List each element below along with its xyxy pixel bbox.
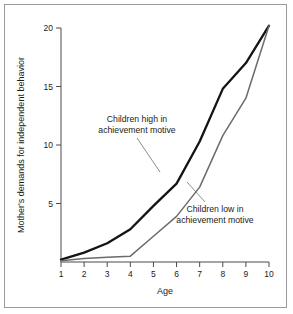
annotation-high-label: Children high inachievement motive bbox=[98, 114, 175, 135]
x-tick-label-8: 8 bbox=[220, 269, 225, 279]
annotation-low-line-0: Children low in bbox=[187, 204, 244, 214]
x-tick-label-1: 1 bbox=[59, 269, 64, 279]
y-tick-label-20: 20 bbox=[44, 23, 54, 33]
x-axis-title: Age bbox=[157, 286, 173, 296]
y-axis-title: Mother's demands for independent behavio… bbox=[16, 57, 26, 233]
y-tick-label-15: 15 bbox=[44, 82, 54, 92]
x-tick-label-7: 7 bbox=[197, 269, 202, 279]
y-tick-label-5: 5 bbox=[48, 199, 53, 209]
x-tick-label-9: 9 bbox=[244, 269, 249, 279]
x-tick-label-10: 10 bbox=[264, 269, 274, 279]
annotation-high-line-1: achievement motive bbox=[98, 125, 175, 135]
x-tick-label-2: 2 bbox=[82, 269, 87, 279]
x-tick-label-4: 4 bbox=[128, 269, 133, 279]
x-tick-label-3: 3 bbox=[105, 269, 110, 279]
annotation-low-label: Children low inachievement motive bbox=[176, 204, 253, 225]
y-tick-label-10: 10 bbox=[44, 140, 54, 150]
x-tick-label-6: 6 bbox=[174, 269, 179, 279]
annotation-high-leader-line bbox=[137, 138, 160, 172]
figure-container: 510152012345678910AgeMother's demands fo… bbox=[0, 0, 293, 314]
series-line-low bbox=[61, 26, 269, 261]
x-tick-label-5: 5 bbox=[151, 269, 156, 279]
annotation-high-line-0: Children high in bbox=[107, 114, 168, 124]
annotation-low-line-1: achievement motive bbox=[176, 215, 253, 225]
chart-plot-area: 510152012345678910AgeMother's demands fo… bbox=[0, 0, 293, 314]
